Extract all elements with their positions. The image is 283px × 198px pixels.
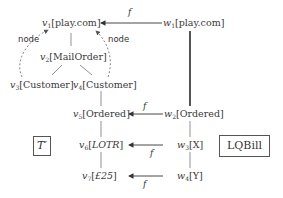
f-label-3: f — [150, 148, 153, 158]
edge-v2-v4 — [80, 65, 92, 75]
node-arc-label-left: node — [18, 34, 39, 44]
node-v7: v7[£25] — [82, 170, 117, 184]
node-v6: v6[LOTR] — [79, 139, 123, 153]
node-w2: w2[Ordered] — [164, 108, 224, 122]
node-w1: w1[play.com] — [163, 17, 224, 31]
node-v3: v3[Customer] — [10, 79, 74, 93]
edge-v2-v3 — [52, 65, 62, 75]
node-v2: v2[MailOrder] — [40, 51, 107, 65]
node-v5: v5[Ordered] — [73, 108, 130, 122]
f-label-2: f — [143, 101, 146, 111]
node-arc-label-right: node — [108, 34, 129, 44]
node-w3: w3[X] — [177, 139, 203, 153]
tree-label-lqbill: LQBill — [219, 135, 270, 157]
node-v1: v1[play.com] — [42, 17, 101, 31]
f-label-1: f — [128, 7, 131, 17]
node-w4: w4[Y] — [177, 170, 203, 184]
node-v4: v4[Customer] — [73, 79, 137, 93]
f-label-4: f — [143, 179, 146, 189]
tree-label-t-prime: T′ — [33, 136, 51, 156]
